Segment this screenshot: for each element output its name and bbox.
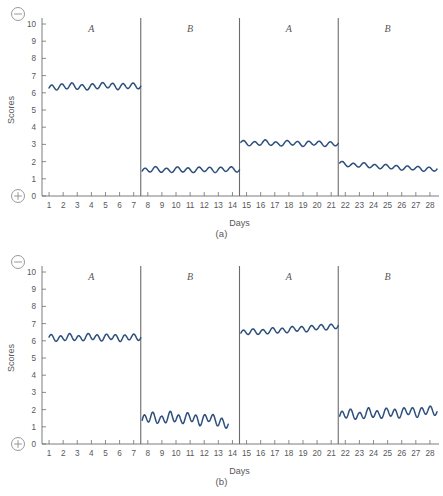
y-tick-label: 9 — [31, 37, 36, 46]
x-tick-label: 4 — [89, 201, 94, 210]
phase-label-2: A — [285, 23, 293, 34]
phase-label-3: B — [385, 23, 391, 34]
x-tick-label: 12 — [200, 201, 210, 210]
x-tick-label: 19 — [298, 201, 308, 210]
x-tick-label: 15 — [242, 201, 252, 210]
data-line-phase-1 — [142, 411, 228, 428]
x-tick-label: 13 — [214, 201, 224, 210]
x-tick-label: 11 — [186, 201, 195, 210]
x-axis-title: Days — [229, 466, 250, 476]
x-tick-label: 14 — [228, 449, 238, 458]
x-tick-label: 7 — [131, 201, 136, 210]
chart-svg-a: 0123456789101234567891011121314151617181… — [0, 0, 443, 248]
x-tick-label: 1 — [47, 449, 52, 458]
y-tick-label: 1 — [31, 175, 36, 184]
y-tick-label: 0 — [31, 192, 36, 201]
x-tick-label: 14 — [228, 201, 238, 210]
y-tick-label: 5 — [31, 354, 36, 363]
y-tick-label: 7 — [31, 72, 36, 81]
x-tick-label: 24 — [369, 201, 379, 210]
x-tick-label: 24 — [369, 449, 379, 458]
x-tick-label: 21 — [327, 201, 337, 210]
x-tick-label: 12 — [200, 449, 210, 458]
x-tick-label: 1 — [47, 201, 52, 210]
x-tick-label: 17 — [270, 201, 280, 210]
x-tick-label: 25 — [383, 201, 393, 210]
x-tick-label: 10 — [171, 201, 181, 210]
x-tick-label: 18 — [284, 449, 294, 458]
data-line-phase-0 — [49, 83, 141, 90]
figure-container: 0123456789101234567891011121314151617181… — [0, 0, 443, 496]
y-tick-label: 9 — [31, 285, 36, 294]
x-tick-label: 18 — [284, 201, 294, 210]
y-tick-label: 5 — [31, 106, 36, 115]
x-tick-label: 5 — [103, 201, 108, 210]
data-line-phase-3 — [340, 406, 437, 419]
y-tick-label: 6 — [31, 89, 36, 98]
x-tick-label: 25 — [383, 449, 393, 458]
x-tick-label: 4 — [89, 449, 94, 458]
x-tick-label: 16 — [256, 449, 266, 458]
x-tick-label: 10 — [171, 449, 181, 458]
chart-svg-b: 0123456789101234567891011121314151617181… — [0, 248, 443, 496]
x-tick-label: 6 — [117, 201, 122, 210]
x-tick-label: 5 — [103, 449, 108, 458]
x-tick-label: 23 — [355, 201, 365, 210]
x-tick-label: 28 — [425, 449, 435, 458]
phase-label-0: A — [87, 23, 95, 34]
y-tick-label: 10 — [27, 20, 37, 29]
chart-panel-b: 0123456789101234567891011121314151617181… — [0, 248, 443, 496]
y-tick-label: 8 — [31, 302, 36, 311]
x-tick-label: 27 — [411, 449, 421, 458]
phase-label-1: B — [187, 271, 193, 282]
x-tick-label: 16 — [256, 201, 266, 210]
phase-label-2: A — [285, 271, 293, 282]
x-tick-label: 15 — [242, 449, 252, 458]
x-tick-label: 21 — [327, 449, 337, 458]
y-axis-title: Scores — [6, 343, 16, 372]
x-tick-label: 26 — [397, 201, 407, 210]
x-tick-label: 19 — [298, 449, 308, 458]
phase-label-0: A — [87, 271, 95, 282]
x-tick-label: 7 — [131, 449, 136, 458]
panel-caption-b: (b) — [0, 476, 443, 487]
x-tick-label: 2 — [61, 201, 66, 210]
x-tick-label: 28 — [425, 201, 435, 210]
phase-label-3: B — [385, 271, 391, 282]
y-tick-label: 8 — [31, 54, 36, 63]
y-tick-label: 3 — [31, 388, 36, 397]
x-tick-label: 27 — [411, 201, 421, 210]
x-tick-label: 6 — [117, 449, 122, 458]
x-tick-label: 9 — [160, 449, 165, 458]
x-tick-label: 17 — [270, 449, 280, 458]
x-tick-label: 22 — [341, 449, 351, 458]
x-tick-label: 20 — [313, 201, 323, 210]
x-tick-label: 22 — [341, 201, 351, 210]
y-tick-label: 10 — [27, 268, 37, 277]
x-tick-label: 23 — [355, 449, 365, 458]
y-tick-label: 4 — [31, 123, 36, 132]
x-tick-label: 8 — [146, 449, 151, 458]
x-tick-label: 11 — [186, 449, 195, 458]
plot-a: 0123456789101234567891011121314151617181… — [6, 8, 439, 229]
x-tick-label: 20 — [313, 449, 323, 458]
x-tick-label: 13 — [214, 449, 224, 458]
x-tick-label: 26 — [397, 449, 407, 458]
x-axis-title: Days — [229, 218, 250, 228]
data-line-phase-1 — [142, 167, 239, 173]
y-tick-label: 2 — [31, 406, 36, 415]
phase-label-1: B — [187, 23, 193, 34]
data-line-phase-2 — [241, 140, 338, 147]
data-line-phase-2 — [241, 324, 338, 334]
plot-b: 0123456789101234567891011121314151617181… — [6, 256, 439, 477]
y-tick-label: 3 — [31, 140, 36, 149]
y-tick-label: 0 — [31, 440, 36, 449]
panel-caption-a: (a) — [0, 228, 443, 239]
x-tick-label: 2 — [61, 449, 66, 458]
y-axis-title: Scores — [6, 95, 16, 124]
x-tick-label: 9 — [160, 201, 165, 210]
y-tick-label: 1 — [31, 423, 36, 432]
y-tick-label: 7 — [31, 320, 36, 329]
chart-panel-a: 0123456789101234567891011121314151617181… — [0, 0, 443, 248]
data-line-phase-0 — [49, 333, 141, 341]
